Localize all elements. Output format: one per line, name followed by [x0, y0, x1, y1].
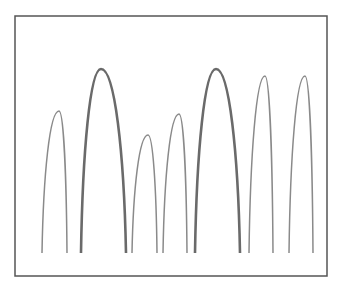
arch-1-thin — [42, 111, 67, 253]
arch-5-thick — [195, 69, 240, 253]
arch-2-thick — [81, 69, 126, 253]
arch-diagram — [0, 0, 344, 292]
arch-7-thin — [289, 76, 313, 253]
diagram-frame — [15, 16, 327, 276]
diagram-canvas — [0, 0, 344, 292]
arches-group — [42, 69, 313, 253]
arch-4-thin — [163, 114, 187, 253]
arch-3-thin — [132, 135, 157, 253]
arch-6-thin — [249, 76, 273, 253]
